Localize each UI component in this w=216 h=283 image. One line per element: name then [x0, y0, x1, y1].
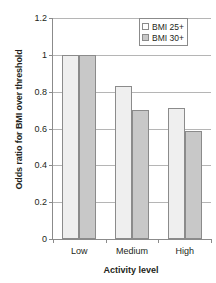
x-tick-mark [211, 239, 212, 243]
plot-area: 00.20.40.60.811.2 LowMediumHigh [52, 18, 211, 240]
y-tick-mark [49, 18, 53, 19]
y-tick-label: 1.2 [34, 13, 47, 23]
bar [185, 131, 202, 239]
y-tick-mark [49, 55, 53, 56]
x-tick-label: High [175, 246, 194, 256]
legend-item[interactable]: BMI 25+ [142, 21, 184, 32]
x-tick-mark [106, 239, 107, 243]
x-tick-label: Low [71, 246, 88, 256]
chart-figure: Odds ratio for BMI over threshold 00.20.… [0, 0, 216, 283]
x-tick-label: Medium [116, 246, 148, 256]
y-tick-label: 0 [42, 234, 47, 244]
x-tick-mark [53, 239, 54, 243]
y-tick-mark [49, 129, 53, 130]
y-tick-label: 0.2 [34, 197, 47, 207]
legend-swatch-icon [142, 34, 149, 41]
y-tick-label: 1 [42, 50, 47, 60]
y-axis-title: Odds ratio for BMI over threshold [14, 0, 28, 239]
y-tick-label: 0.8 [34, 87, 47, 97]
bar [132, 110, 149, 239]
legend-item[interactable]: BMI 30+ [142, 32, 184, 43]
bar [79, 55, 96, 239]
y-tick-label: 0.6 [34, 124, 47, 134]
y-tick-label: 0.4 [34, 160, 47, 170]
y-tick-mark [49, 92, 53, 93]
y-tick-mark [49, 165, 53, 166]
legend-label: BMI 25+ [152, 22, 184, 32]
legend: BMI 25+BMI 30+ [139, 18, 188, 46]
bar [168, 108, 185, 239]
bar [115, 86, 132, 239]
x-axis-title: Activity level [52, 265, 210, 275]
legend-swatch-icon [142, 23, 149, 30]
bar [62, 55, 79, 239]
legend-label: BMI 30+ [152, 33, 184, 43]
x-tick-mark [158, 239, 159, 243]
y-tick-mark [49, 202, 53, 203]
